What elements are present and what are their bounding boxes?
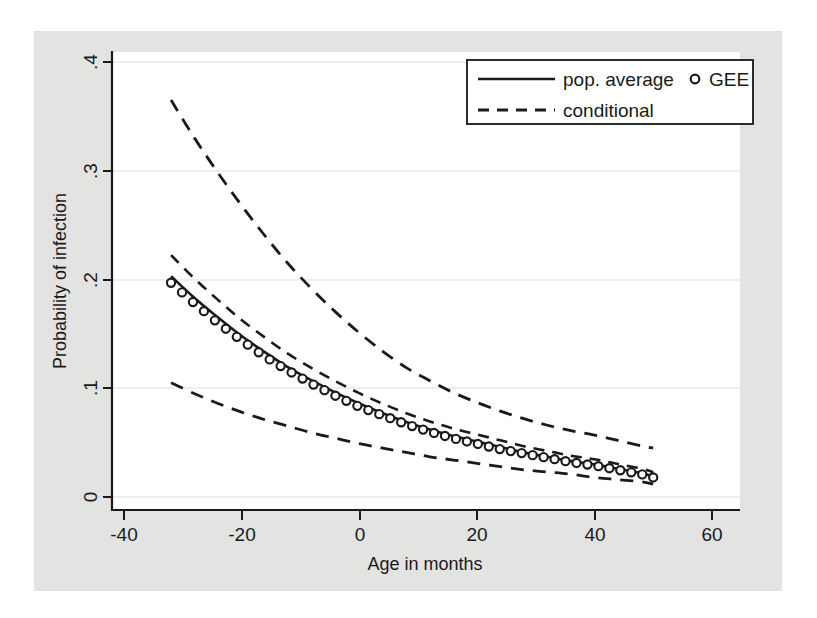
gee-marker bbox=[408, 422, 416, 430]
gee-marker bbox=[320, 386, 328, 394]
gee-marker bbox=[485, 442, 493, 450]
gee-marker bbox=[397, 418, 405, 426]
gee-marker bbox=[561, 457, 569, 465]
gee-marker bbox=[189, 298, 197, 306]
gee-marker bbox=[594, 462, 602, 470]
legend-label-pop-average: pop. average bbox=[563, 69, 674, 90]
x-tick-label-0: 0 bbox=[355, 524, 366, 545]
y-tick-label-0.3: .3 bbox=[80, 163, 101, 179]
x-tick-label--20: -20 bbox=[228, 524, 255, 545]
gee-marker bbox=[386, 414, 394, 422]
gee-marker bbox=[583, 460, 591, 468]
chart-canvas: .4 .3 .2 .1 0 -40 -20 0 20 40 60 Age in … bbox=[0, 0, 817, 618]
gee-marker bbox=[375, 410, 383, 418]
legend: pop. average GEE conditional bbox=[467, 60, 753, 124]
gee-marker bbox=[649, 473, 657, 481]
gee-marker bbox=[211, 316, 219, 324]
gee-marker bbox=[266, 355, 274, 363]
gee-marker bbox=[518, 449, 526, 457]
gee-marker bbox=[540, 453, 548, 461]
gee-marker bbox=[463, 437, 471, 445]
y-tick-label-0: 0 bbox=[80, 492, 101, 503]
gee-marker bbox=[627, 468, 635, 476]
gee-marker bbox=[298, 374, 306, 382]
legend-swatch-gee-icon bbox=[691, 75, 700, 84]
x-tick-label--40: -40 bbox=[110, 524, 137, 545]
gee-marker bbox=[342, 397, 350, 405]
gee-marker bbox=[616, 466, 624, 474]
gee-marker bbox=[353, 402, 361, 410]
x-tick-label-60: 60 bbox=[701, 524, 722, 545]
y-tick-labels: .4 .3 .2 .1 0 bbox=[80, 54, 101, 503]
x-axis-ticks bbox=[124, 510, 712, 520]
gee-marker bbox=[419, 425, 427, 433]
gee-marker bbox=[638, 470, 646, 478]
gee-marker bbox=[287, 368, 295, 376]
legend-label-conditional: conditional bbox=[563, 100, 654, 121]
gee-marker bbox=[430, 429, 438, 437]
gee-marker bbox=[178, 288, 186, 296]
gee-marker bbox=[605, 464, 613, 472]
gee-marker bbox=[452, 435, 460, 443]
x-axis-title: Age in months bbox=[367, 554, 482, 574]
gee-marker bbox=[277, 362, 285, 370]
legend-label-gee: GEE bbox=[709, 69, 749, 90]
y-tick-label-0.1: .1 bbox=[80, 380, 101, 396]
gee-marker bbox=[364, 406, 372, 414]
y-axis-ticks bbox=[103, 62, 112, 497]
gee-marker bbox=[496, 445, 504, 453]
gee-marker bbox=[233, 333, 241, 341]
gee-marker bbox=[167, 279, 175, 287]
y-tick-label-0.4: .4 bbox=[80, 54, 101, 70]
x-tick-label-40: 40 bbox=[584, 524, 605, 545]
gee-marker bbox=[244, 341, 252, 349]
gee-marker bbox=[441, 432, 449, 440]
gee-marker bbox=[507, 447, 515, 455]
gee-marker bbox=[529, 451, 537, 459]
gee-marker bbox=[222, 325, 230, 333]
gee-marker bbox=[331, 392, 339, 400]
gee-marker bbox=[200, 307, 208, 315]
gee-marker bbox=[255, 348, 263, 356]
gee-marker bbox=[572, 459, 580, 467]
x-tick-labels: -40 -20 0 20 40 60 bbox=[110, 524, 722, 545]
y-axis-title: Probability of infection bbox=[50, 193, 70, 369]
gee-marker bbox=[474, 440, 482, 448]
y-tick-label-0.2: .2 bbox=[80, 272, 101, 288]
gee-marker bbox=[550, 455, 558, 463]
gee-marker bbox=[309, 380, 317, 388]
x-tick-label-20: 20 bbox=[466, 524, 487, 545]
figure-root: .4 .3 .2 .1 0 -40 -20 0 20 40 60 Age in … bbox=[0, 0, 817, 618]
